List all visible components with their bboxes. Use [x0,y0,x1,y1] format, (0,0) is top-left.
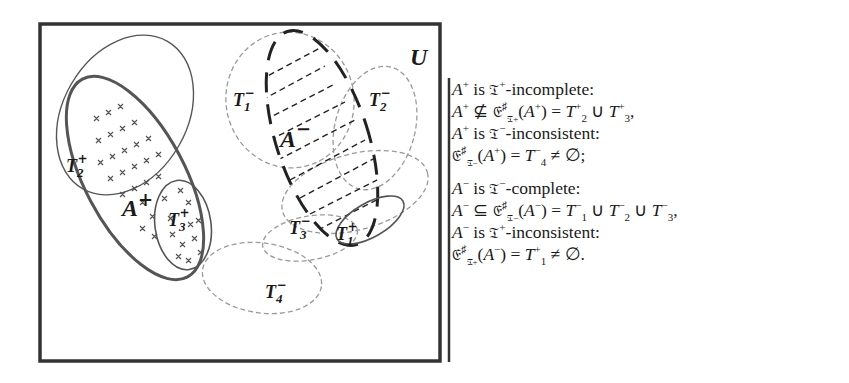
set-t4-minus [198,235,327,321]
formula-a-minus-t-plus-closure: 𝔈♯𝔗+(A−) = T+1 ≠ ∅. [452,243,847,265]
statement-a-plus-incomplete: A+ is 𝔗+-incomplete: [452,78,847,100]
formula-a-plus-closure: A+ ⊈ 𝔈♯𝔗+(A+) = T+2 ∪ T+3, [452,100,847,122]
set-a-minus [244,17,401,258]
label-a-plus: A+ [120,189,153,221]
label-t2-plus: T2+ [66,152,88,180]
universe-frame [40,24,440,361]
statements-panel: A+ is 𝔗+-incomplete: A+ ⊈ 𝔈♯𝔗+(A+) = T+2… [452,78,847,265]
set-t2-plus [29,10,221,219]
universe-label: U [410,44,429,70]
statement-a-plus-inconsistent: A+ is 𝔗−-inconsistent: [452,122,847,144]
label-t4-minus: T4− [265,278,287,306]
label-t3-plus: T3+ [168,206,190,234]
formula-a-plus-t-minus-closure: 𝔈♯𝔗−(A+) = T−4 ≠ ∅; [452,144,847,166]
formula-a-minus-closure: A− ⊆ 𝔈♯𝔗−(A−) = T−1 ∪ T−2 ∪ T−3, [452,199,847,221]
set-labels: A+ A− T2+ T3+ T1+ T1− T2− T3− T4− [66,86,391,306]
t-minus-sets [198,22,438,321]
label-t3-minus: T3− [289,214,311,242]
label-a-minus: A− [278,118,311,152]
statement-a-minus-inconsistent: A− is 𝔗+-inconsistent: [452,221,847,243]
statement-a-minus-complete: A− is 𝔗−-complete: [452,177,847,199]
label-t1-minus: T1− [233,86,255,114]
label-t2-minus: T2− [369,86,391,114]
